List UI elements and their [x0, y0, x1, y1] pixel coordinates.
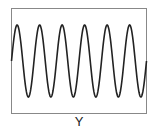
sine-wave: [12, 25, 147, 97]
axis-label: Y: [2, 114, 154, 129]
